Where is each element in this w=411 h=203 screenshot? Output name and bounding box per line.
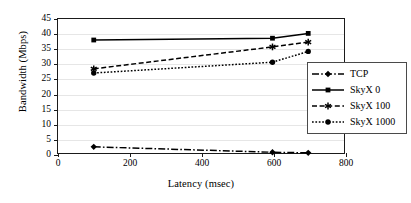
plot-area: 051015202530354045 0200400600800 — [57, 18, 345, 154]
diamond-marker — [325, 71, 331, 77]
legend-key-skyx-1000 — [311, 115, 345, 129]
y-tick-label: 5 — [46, 135, 51, 145]
x-tick-label: 800 — [339, 159, 353, 169]
legend-label-skyx-0: SkyX 0 — [345, 85, 380, 95]
legend-item-skyx-0[interactable]: SkyX 0 — [311, 82, 402, 98]
circle-marker — [325, 119, 330, 124]
legend-key-skyx-0 — [311, 83, 345, 97]
square-marker — [306, 31, 311, 36]
data-series-layer — [58, 19, 344, 154]
y-tick-label: 25 — [42, 75, 52, 85]
y-tick-label: 10 — [42, 120, 52, 130]
circle-marker — [270, 60, 275, 65]
legend-label-skyx-100: SkyX 100 — [345, 101, 390, 111]
y-tick-label: 30 — [42, 60, 52, 70]
diamond-marker — [91, 144, 97, 150]
x-tick-label: 200 — [123, 159, 137, 169]
y-tick-label: 40 — [42, 29, 52, 39]
y-axis-title: Bandwidth (Mbps) — [17, 2, 28, 142]
legend-key-skyx-100 — [311, 99, 345, 113]
x-tick — [346, 153, 347, 157]
x-axis-title: Latency (msec) — [57, 178, 345, 189]
series-line — [94, 42, 308, 69]
legend: TCP SkyX 0 SkyX 100 SkyX 1000 — [307, 62, 407, 134]
legend-label-skyx-1000: SkyX 1000 — [345, 117, 395, 127]
x-tick-label: 0 — [56, 159, 61, 169]
square-marker — [270, 36, 275, 41]
legend-label-tcp: TCP — [345, 69, 368, 79]
legend-key-tcp — [311, 67, 345, 81]
series-line — [94, 33, 308, 40]
series-skyx-0 — [91, 31, 310, 42]
diamond-marker — [305, 150, 311, 156]
y-tick-label: 0 — [46, 150, 51, 160]
series-tcp — [91, 144, 312, 156]
y-tick-label: 20 — [42, 90, 52, 100]
circle-marker — [91, 70, 96, 75]
series-line — [94, 51, 308, 73]
square-marker — [91, 38, 96, 43]
x-tick-label: 600 — [267, 159, 281, 169]
circle-marker — [306, 49, 311, 54]
legend-item-skyx-1000[interactable]: SkyX 1000 — [311, 114, 402, 130]
square-marker — [326, 88, 331, 93]
legend-item-tcp[interactable]: TCP — [311, 66, 402, 82]
y-tick-label: 15 — [42, 105, 52, 115]
y-tick-label: 45 — [42, 14, 52, 24]
series-line — [94, 147, 308, 153]
x-tick-label: 400 — [195, 159, 209, 169]
series-skyx-1000 — [91, 49, 311, 76]
y-tick-label: 35 — [42, 44, 52, 54]
legend-item-skyx-100[interactable]: SkyX 100 — [311, 98, 402, 114]
series-skyx-100 — [91, 39, 311, 72]
line-chart-figure: Bandwidth (Mbps) Latency (msec) 05101520… — [0, 0, 411, 203]
